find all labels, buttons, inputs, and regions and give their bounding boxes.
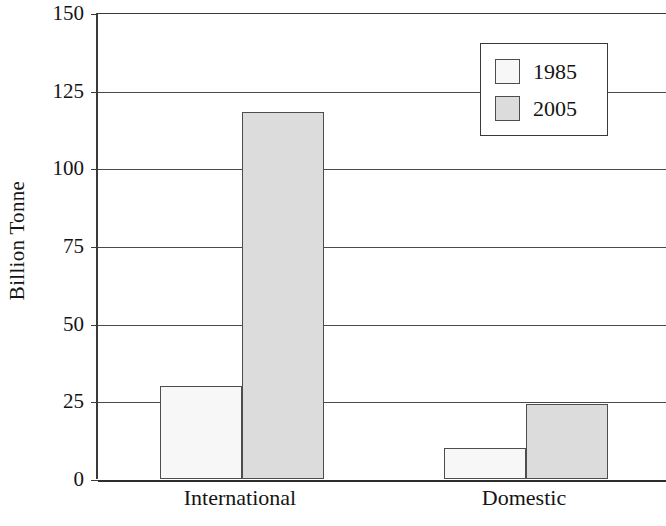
y-axis-tick-label: 75 bbox=[63, 236, 84, 257]
y-axis-tick-label: 25 bbox=[63, 391, 84, 412]
y-axis-tick-mark bbox=[91, 169, 98, 170]
y-axis-tick-labels: 0255075100125150 bbox=[34, 0, 90, 526]
y-axis-tick-mark bbox=[91, 14, 98, 15]
x-axis-category-label: International bbox=[184, 487, 296, 509]
y-axis-tick-mark bbox=[91, 480, 98, 481]
bar bbox=[444, 448, 526, 479]
y-axis-title: Billion Tonne bbox=[0, 0, 36, 480]
y-axis-tick-label: 150 bbox=[53, 3, 85, 24]
legend-item: 1985 bbox=[495, 53, 607, 90]
bar-chart: Billion Tonne 0255075100125150 19852005 … bbox=[0, 0, 666, 526]
legend-label: 1985 bbox=[533, 61, 577, 83]
y-axis-tick-mark bbox=[91, 92, 98, 93]
y-axis-tick-mark bbox=[91, 247, 98, 248]
y-axis-tick-label: 100 bbox=[53, 158, 85, 179]
legend-label: 2005 bbox=[533, 98, 577, 120]
legend: 19852005 bbox=[480, 43, 608, 136]
bar bbox=[242, 112, 324, 479]
y-axis-tick-label: 125 bbox=[53, 80, 85, 101]
x-axis-category-labels: InternationalDomestic bbox=[0, 487, 666, 526]
axis-baseline bbox=[98, 480, 666, 482]
bar bbox=[160, 386, 242, 479]
bar bbox=[526, 404, 608, 479]
legend-item: 2005 bbox=[495, 90, 607, 127]
legend-swatch bbox=[495, 59, 520, 84]
y-axis-tick-mark bbox=[91, 402, 98, 403]
y-axis-title-text: Billion Tonne bbox=[6, 180, 31, 299]
x-axis-category-label: Domestic bbox=[482, 487, 566, 509]
y-axis-tick-label: 50 bbox=[63, 313, 84, 334]
legend-swatch bbox=[495, 96, 520, 121]
y-axis-tick-mark bbox=[91, 325, 98, 326]
